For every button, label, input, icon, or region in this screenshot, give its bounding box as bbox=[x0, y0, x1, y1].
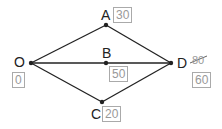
node-a-value-box: 30 bbox=[113, 7, 132, 23]
edge-a-d bbox=[106, 25, 171, 63]
node-c-label: C bbox=[91, 107, 101, 121]
node-c-value-box: 20 bbox=[102, 106, 121, 122]
node-a-label: A bbox=[101, 8, 110, 22]
node-a-dot bbox=[104, 23, 108, 27]
node-d-dot bbox=[169, 61, 173, 65]
node-c-dot bbox=[100, 100, 104, 104]
node-d-value-box: 60 bbox=[192, 72, 211, 88]
node-d-label: D bbox=[177, 56, 187, 70]
node-o-dot bbox=[29, 61, 33, 65]
node-o-label: O bbox=[14, 55, 25, 69]
node-b-label: B bbox=[102, 46, 111, 60]
node-o-value-box: 0 bbox=[12, 72, 25, 88]
node-b-dot bbox=[104, 61, 108, 65]
edge-o-a bbox=[31, 25, 106, 63]
edge-o-c bbox=[31, 63, 102, 102]
node-b-value-box: 50 bbox=[109, 66, 128, 82]
node-d-struck-value: 80 bbox=[192, 55, 204, 66]
